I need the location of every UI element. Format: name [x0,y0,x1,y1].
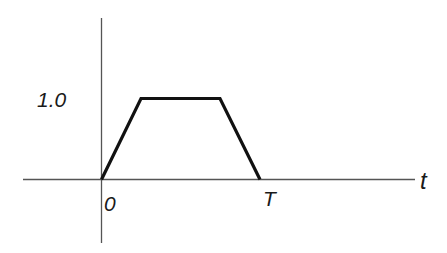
x-axis-label: t [420,169,427,193]
origin-label: 0 [104,193,116,214]
chart-figure: 1.0 0 T t [0,0,447,253]
y-tick-label: 1.0 [37,89,66,110]
trapezoid-pulse-curve [102,99,261,180]
chart-plot [0,0,447,253]
x-tick-label-T: T [263,188,276,209]
